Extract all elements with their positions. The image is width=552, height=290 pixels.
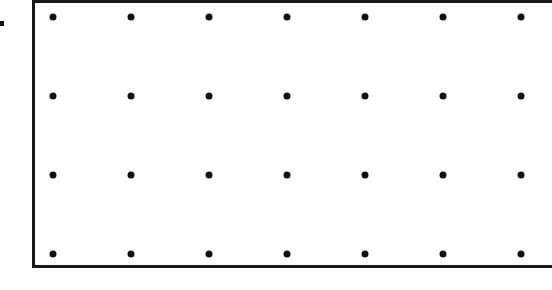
grid-dot bbox=[284, 14, 291, 21]
grid-dot bbox=[50, 93, 57, 100]
grid-dot bbox=[206, 251, 213, 258]
grid-dot bbox=[518, 172, 525, 179]
grid-dot bbox=[206, 93, 213, 100]
grid-dot bbox=[440, 251, 447, 258]
grid-dot bbox=[362, 14, 369, 21]
grid-dot bbox=[362, 172, 369, 179]
grid-dot bbox=[518, 251, 525, 258]
grid-dot bbox=[128, 172, 135, 179]
grid-dot bbox=[50, 251, 57, 258]
grid-dot bbox=[128, 14, 135, 21]
grid-dot bbox=[440, 14, 447, 21]
grid-dot bbox=[128, 251, 135, 258]
grid-dot bbox=[206, 14, 213, 21]
grid-dot bbox=[518, 14, 525, 21]
grid-dot bbox=[518, 93, 525, 100]
grid-dot bbox=[50, 14, 57, 21]
grid-dot bbox=[362, 93, 369, 100]
dot-grid-frame bbox=[32, 0, 552, 268]
grid-dot bbox=[128, 93, 135, 100]
grid-dot bbox=[50, 172, 57, 179]
grid-dot bbox=[284, 93, 291, 100]
grid-dot bbox=[284, 251, 291, 258]
grid-dot bbox=[440, 93, 447, 100]
grid-dot bbox=[206, 172, 213, 179]
bullet-marker bbox=[0, 21, 4, 26]
grid-dot bbox=[284, 172, 291, 179]
grid-dot bbox=[440, 172, 447, 179]
grid-dot bbox=[362, 251, 369, 258]
